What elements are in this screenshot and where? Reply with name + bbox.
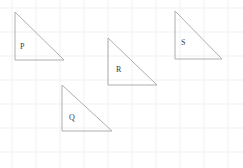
triangle-p-label: P <box>20 43 24 51</box>
triangle-s-label: S <box>181 39 185 47</box>
triangle-r-label: R <box>116 66 121 74</box>
triangle-r <box>108 38 157 85</box>
triangles-layer <box>0 0 243 168</box>
triangle-q <box>62 85 112 131</box>
triangle-s <box>175 11 222 59</box>
figure-canvas: PQRS <box>0 0 243 168</box>
triangle-q-label: Q <box>69 114 75 122</box>
triangle-p <box>15 12 64 60</box>
